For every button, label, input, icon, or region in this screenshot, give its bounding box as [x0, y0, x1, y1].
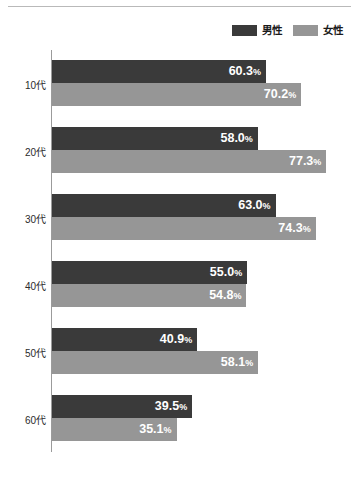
- legend-label: 女性: [323, 25, 343, 36]
- legend-swatch-icon: [232, 25, 257, 36]
- chart-canvas: 男性女性 10代20代30代40代50代60代 60.3%70.2%58.0%7…: [0, 0, 359, 478]
- bar-female-40代[interactable]: 54.8%: [52, 284, 246, 307]
- bar-value-label: 55.0%: [210, 266, 242, 280]
- bar-male-50代[interactable]: 40.9%: [52, 328, 197, 351]
- bar-female-60代[interactable]: 35.1%: [52, 418, 177, 441]
- category-label-50代: 50代: [0, 345, 46, 360]
- bar-male-40代[interactable]: 55.0%: [52, 261, 247, 284]
- category-label-40代: 40代: [0, 278, 46, 293]
- bar-value-label: 60.3%: [229, 65, 261, 79]
- bar-value-label: 74.3%: [278, 222, 310, 236]
- category-label-60代: 60代: [0, 412, 46, 427]
- bar-value-label: 70.2%: [264, 88, 296, 102]
- category-label-10代: 10代: [0, 77, 46, 92]
- legend-item-male[interactable]: 男性: [232, 25, 282, 36]
- legend-item-female[interactable]: 女性: [293, 25, 343, 36]
- category-axis-labels: 10代20代30代40代50代60代: [0, 50, 46, 452]
- bar-male-60代[interactable]: 39.5%: [52, 395, 192, 418]
- bar-male-30代[interactable]: 63.0%: [52, 194, 276, 217]
- bar-value-label: 58.0%: [220, 132, 252, 146]
- bar-value-label: 58.1%: [221, 356, 253, 370]
- bar-value-label: 77.3%: [289, 155, 321, 169]
- bar-plot-area: 60.3%70.2%58.0%77.3%63.0%74.3%55.0%54.8%…: [52, 50, 359, 452]
- bar-value-label: 54.8%: [209, 289, 241, 303]
- bar-male-10代[interactable]: 60.3%: [52, 60, 266, 83]
- chart-legend: 男性女性: [232, 25, 343, 36]
- legend-label: 男性: [262, 25, 282, 36]
- bar-value-label: 39.5%: [155, 400, 187, 414]
- category-label-30代: 30代: [0, 211, 46, 226]
- bar-female-10代[interactable]: 70.2%: [52, 83, 301, 106]
- top-divider-rule: [8, 6, 351, 7]
- bar-female-30代[interactable]: 74.3%: [52, 217, 316, 240]
- bar-value-label: 35.1%: [139, 423, 171, 437]
- bar-male-20代[interactable]: 58.0%: [52, 127, 258, 150]
- bar-value-label: 63.0%: [238, 199, 270, 213]
- category-label-20代: 20代: [0, 144, 46, 159]
- bar-value-label: 40.9%: [160, 333, 192, 347]
- bar-female-20代[interactable]: 77.3%: [52, 150, 326, 173]
- legend-swatch-icon: [293, 25, 318, 36]
- bar-female-50代[interactable]: 58.1%: [52, 351, 258, 374]
